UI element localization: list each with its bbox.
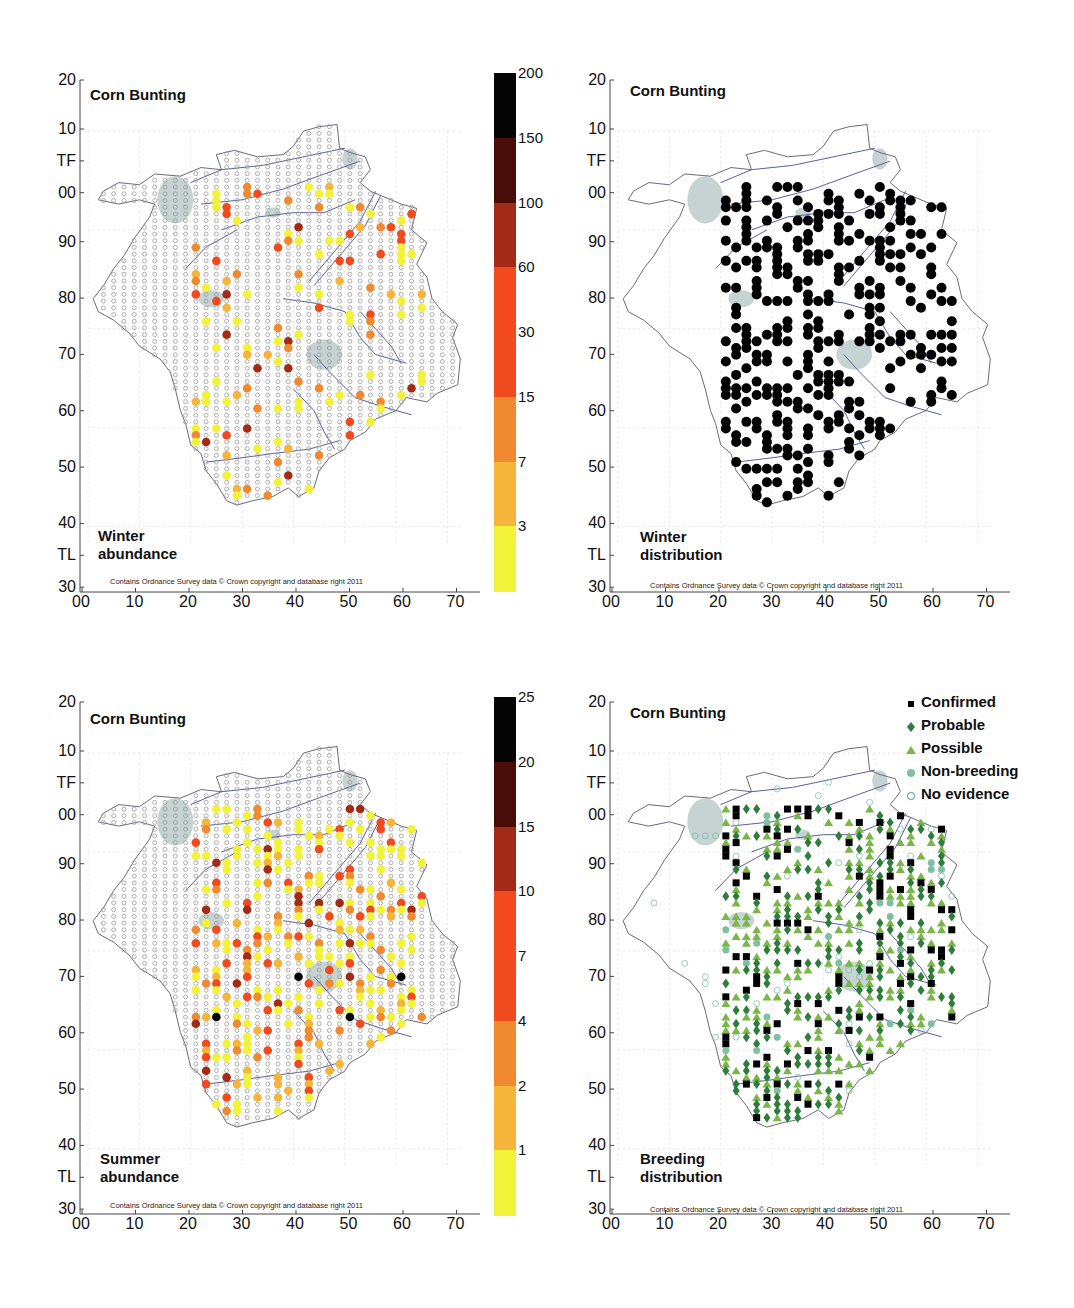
empty-tetrad-dot <box>204 339 208 343</box>
abundance-dot <box>325 236 334 245</box>
no-evidence-marker <box>836 860 842 866</box>
empty-tetrad-dot <box>317 185 321 189</box>
empty-tetrad-dot <box>276 413 280 417</box>
empty-tetrad-dot <box>286 319 290 323</box>
empty-tetrad-dot <box>101 928 105 932</box>
empty-tetrad-dot <box>204 219 208 223</box>
empty-tetrad-dot <box>255 867 259 871</box>
abundance-dot <box>253 364 262 373</box>
empty-tetrad-dot <box>235 286 239 290</box>
colorbar-tick-label: 3 <box>518 517 526 534</box>
legend-possible: Possible <box>905 739 983 756</box>
empty-tetrad-dot <box>297 480 301 484</box>
empty-tetrad-dot <box>245 359 249 363</box>
presence-dot <box>803 330 813 340</box>
empty-tetrad-dot <box>317 894 321 898</box>
empty-tetrad-dot <box>235 861 239 865</box>
abundance-dot <box>366 1040 375 1049</box>
abundance-dot <box>274 959 283 968</box>
empty-tetrad-dot <box>348 299 352 303</box>
empty-tetrad-dot <box>266 427 270 431</box>
empty-tetrad-dot <box>225 1082 229 1086</box>
empty-tetrad-dot <box>276 1022 280 1026</box>
empty-tetrad-dot <box>255 975 259 979</box>
empty-tetrad-dot <box>276 192 280 196</box>
empty-tetrad-dot <box>245 928 249 932</box>
empty-tetrad-dot <box>379 266 383 270</box>
empty-tetrad-dot <box>358 787 362 791</box>
empty-tetrad-dot <box>255 981 259 985</box>
empty-tetrad-dot <box>235 346 239 350</box>
empty-tetrad-dot <box>184 393 188 397</box>
empty-tetrad-dot <box>368 955 372 959</box>
empty-tetrad-dot <box>122 820 126 824</box>
empty-tetrad-dot <box>255 834 259 838</box>
confirmed-marker <box>722 1034 729 1041</box>
empty-tetrad-dot <box>317 245 321 249</box>
abundance-dot <box>284 444 293 453</box>
abundance-dot <box>263 1006 272 1015</box>
empty-tetrad-dot <box>307 888 311 892</box>
abundance-dot <box>263 491 272 500</box>
presence-dot <box>741 236 751 246</box>
empty-tetrad-dot <box>348 413 352 417</box>
empty-tetrad-dot <box>307 366 311 370</box>
y-tick-label: TF <box>56 774 76 792</box>
abundance-dot <box>397 1019 406 1028</box>
presence-dot <box>731 390 741 400</box>
empty-tetrad-dot <box>245 373 249 377</box>
empty-tetrad-dot <box>307 198 311 202</box>
abundance-dot <box>222 1053 231 1062</box>
legend-no-evidence: No evidence <box>905 785 1009 802</box>
empty-tetrad-dot <box>112 894 116 898</box>
abundance-dot <box>222 471 231 480</box>
probable-marker <box>784 1005 791 1015</box>
abundance-dot <box>212 885 221 894</box>
abundance-dot <box>274 337 283 346</box>
empty-tetrad-dot <box>235 901 239 905</box>
colorbar-tick-label: 200 <box>518 64 543 81</box>
empty-tetrad-dot <box>338 232 342 236</box>
y-tick-label: 50 <box>58 1080 76 1098</box>
confirmed-marker <box>866 1054 873 1061</box>
no-evidence-marker <box>702 974 708 980</box>
colorbar-tick-label: 2 <box>518 1077 526 1094</box>
empty-tetrad-dot <box>122 279 126 283</box>
abundance-dot <box>222 1093 231 1102</box>
empty-tetrad-dot <box>245 252 249 256</box>
confirmed-marker <box>815 1000 822 1007</box>
abundance-dot <box>202 1053 211 1062</box>
river <box>721 148 875 182</box>
empty-tetrad-dot <box>327 1022 331 1026</box>
empty-tetrad-dot <box>132 874 136 878</box>
empty-tetrad-dot <box>338 192 342 196</box>
abundance-dot <box>376 946 385 955</box>
empty-tetrad-dot <box>327 820 331 824</box>
possible-marker <box>814 1026 823 1034</box>
map-plot <box>530 0 1070 620</box>
empty-tetrad-dot <box>410 928 414 932</box>
empty-tetrad-dot <box>173 894 177 898</box>
empty-tetrad-dot <box>410 333 414 337</box>
empty-tetrad-dot <box>235 1122 239 1126</box>
empty-tetrad-dot <box>307 827 311 831</box>
empty-tetrad-dot <box>163 975 167 979</box>
empty-tetrad-dot <box>225 487 229 491</box>
abundance-dot <box>366 838 375 847</box>
x-tick-label: 10 <box>126 593 144 611</box>
confirmed-marker <box>743 873 750 880</box>
probable-marker <box>805 864 812 874</box>
empty-tetrad-dot <box>142 299 146 303</box>
empty-tetrad-dot <box>338 172 342 176</box>
presence-dot <box>762 356 772 366</box>
empty-tetrad-dot <box>204 406 208 410</box>
possible-marker <box>906 966 915 974</box>
empty-tetrad-dot <box>317 380 321 384</box>
empty-tetrad-dot <box>235 259 239 263</box>
empty-tetrad-dot <box>389 353 393 357</box>
empty-tetrad-dot <box>379 299 383 303</box>
empty-tetrad-dot <box>214 1042 218 1046</box>
empty-tetrad-dot <box>348 847 352 851</box>
legend-probable: Probable <box>905 716 985 733</box>
empty-tetrad-dot <box>101 299 105 303</box>
